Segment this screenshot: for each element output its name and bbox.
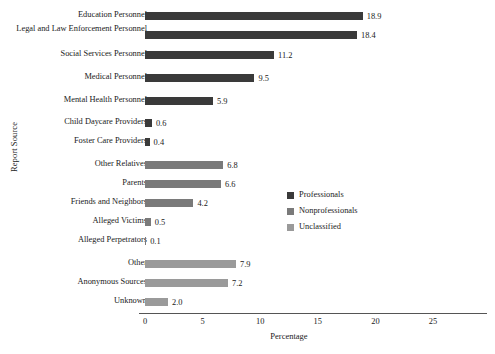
bar: [145, 298, 168, 306]
bar-category-label: Legal and Law Enforcement Personnel: [0, 24, 147, 34]
bar-value-label: 0.1: [150, 237, 160, 246]
bar-row: Anonymous Sources7.2: [0, 277, 495, 289]
bar-row: Friends and Neighbors4.2: [0, 197, 495, 209]
bar-value-label: 9.5: [258, 74, 268, 83]
bar-value-label: 7.9: [240, 260, 250, 269]
x-tick-label: 10: [245, 317, 275, 326]
bar: [145, 119, 152, 127]
bar-value-label: 6.6: [225, 180, 235, 189]
bar: [145, 12, 363, 20]
bar-row: Social Services Personnel11.2: [0, 49, 495, 61]
bar-value-label: 7.2: [232, 279, 242, 288]
bar: [145, 279, 228, 287]
bar-row: Parents6.6: [0, 178, 495, 190]
bar-category-label: Education Personnel: [0, 10, 147, 20]
bar-category-label: Other: [0, 258, 147, 268]
bar: [145, 97, 213, 105]
x-tick-label: 25: [418, 317, 448, 326]
legend-label: Professionals: [299, 190, 344, 199]
bar-value-label: 6.8: [227, 161, 237, 170]
bar-value-label: 11.2: [278, 51, 292, 60]
bar: [145, 74, 254, 82]
bar-value-label: 2.0: [172, 298, 182, 307]
bar-category-label: Unknown: [0, 296, 147, 306]
bar-category-label: Alleged Victims: [0, 216, 147, 226]
bar: [145, 31, 357, 39]
bar: [145, 161, 223, 169]
bar-category-label: Social Services Personnel: [0, 49, 147, 59]
bar: [145, 199, 193, 207]
x-tick-label: 15: [303, 317, 333, 326]
bar-chart: Report Source Education Personnel18.9Leg…: [0, 0, 495, 354]
bar: [145, 218, 151, 226]
x-axis-line: [139, 313, 487, 314]
bar: [145, 260, 236, 268]
bar-row: Alleged Victims0.5: [0, 216, 495, 228]
bar-category-label: Child Daycare Providers: [0, 117, 147, 127]
x-tick-label: 5: [188, 317, 218, 326]
bar: [145, 180, 221, 188]
bar-row: Foster Care Providers0.4: [0, 136, 495, 148]
bar-category-label: Friends and Neighbors: [0, 197, 147, 207]
bar-row: Mental Health Personnel5.9: [0, 95, 495, 107]
bar-value-label: 18.9: [367, 12, 382, 21]
bar-value-label: 0.5: [155, 218, 165, 227]
bar-category-label: Medical Personnel: [0, 72, 147, 82]
bar-row: Child Daycare Providers0.6: [0, 117, 495, 129]
bar-value-label: 18.4: [361, 31, 376, 40]
x-axis-title: Percentage: [145, 331, 433, 341]
bar-value-label: 5.9: [217, 97, 227, 106]
bar-value-label: 4.2: [197, 199, 207, 208]
bar-row: Other7.9: [0, 258, 495, 270]
bar: [145, 51, 274, 59]
bar-row: Other Relatives6.8: [0, 159, 495, 171]
legend-swatch-icon: [287, 208, 294, 215]
bar-category-label: Other Relatives: [0, 159, 147, 169]
legend-label: Nonprofessionals: [299, 206, 358, 215]
x-tick-label: 20: [360, 317, 390, 326]
bar-category-label: Foster Care Providers: [0, 136, 147, 146]
bar: [145, 138, 150, 146]
bar-value-label: 0.4: [154, 138, 164, 147]
bar-category-label: Mental Health Personnel: [0, 95, 147, 105]
bar-row: Education Personnel18.9: [0, 10, 495, 22]
bar-row: Legal and Law Enforcement Personnel18.4: [0, 29, 495, 41]
legend-swatch-icon: [287, 192, 294, 199]
bar-row: Alleged Perpetrators0.1: [0, 235, 495, 247]
x-tick-label: 0: [130, 317, 160, 326]
legend-swatch-icon: [287, 224, 294, 231]
bar-category-label: Parents: [0, 178, 147, 188]
legend-label: Unclassified: [299, 222, 341, 231]
bar-category-label: Alleged Perpetrators: [0, 235, 147, 245]
bar-row: Unknown2.0: [0, 296, 495, 308]
bar-category-label: Anonymous Sources: [0, 277, 147, 287]
bar-value-label: 0.6: [156, 119, 166, 128]
bar-row: Medical Personnel9.5: [0, 72, 495, 84]
bar: [145, 237, 146, 245]
